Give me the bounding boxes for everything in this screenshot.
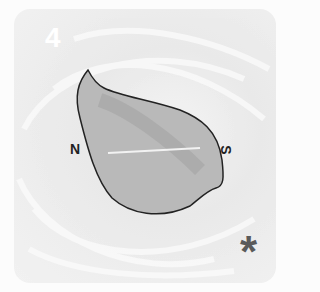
north-label: N (70, 141, 80, 157)
asterisk-icon: * (240, 230, 257, 274)
south-label: S (218, 145, 234, 154)
